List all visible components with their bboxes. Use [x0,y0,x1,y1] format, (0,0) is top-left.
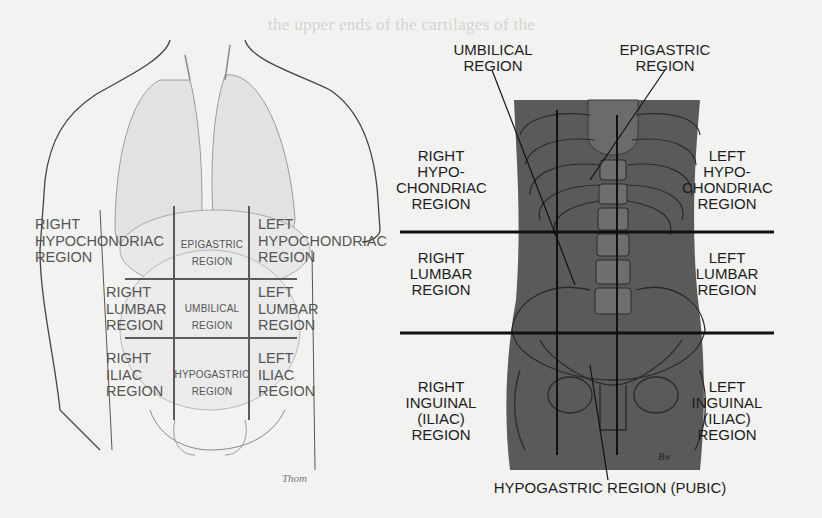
left-panel-organ-diagram: Thom RIGHT HYPOCHONDRIAC REGION EPIGASTR… [0,0,420,518]
region-label-epigastric: EPIGASTRIC REGION [177,236,247,270]
callout-hypogastric-region: HYPOGASTRIC REGION (PUBIC) [490,480,730,496]
region-label-right-iliac: RIGHT ILIAC REGION [106,350,163,400]
artist-signature-right: Bw [658,451,671,462]
region-label-left-inguinal: LEFT INGUINAL (ILIAC) REGION [682,379,772,443]
region-label-left-hypochondriac: LEFT HYPOCHONDRIAC REGION [258,216,387,266]
callout-umbilical-region: UMBILICAL REGION [448,42,538,74]
artist-signature-left: Thom [282,472,307,484]
callout-epigastric-region: EPIGASTRIC REGION [610,42,720,74]
region-label-right-hypochondriac: RIGHT HYPOCHONDRIAC REGION [35,216,164,266]
region-label-right-lumbar: RIGHT LUMBAR REGION [396,250,486,298]
region-label-right-lumbar: RIGHT LUMBAR REGION [106,284,166,334]
region-label-left-hypochondriac: LEFT HYPO- CHONDRIAC REGION [682,148,772,212]
right-panel-skeletal-diagram: Bw UMBILICAL REGION EPIGASTRIC REGION RI… [400,0,822,518]
region-label-left-iliac: LEFT ILIAC REGION [258,350,315,400]
region-label-left-lumbar: LEFT LUMBAR REGION [682,250,772,298]
region-label-right-hypochondriac: RIGHT HYPO- CHONDRIAC REGION [396,148,486,212]
region-label-left-lumbar: LEFT LUMBAR REGION [258,284,318,334]
region-label-right-inguinal: RIGHT INGUINAL (ILIAC) REGION [396,379,486,443]
region-label-hypogastric: HYPOGASTRIC REGION [170,366,254,400]
region-label-umbilical: UMBILICAL REGION [177,300,247,334]
